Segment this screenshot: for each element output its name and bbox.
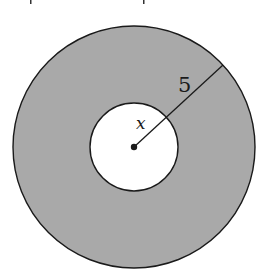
inner-radius-label: x xyxy=(136,113,146,133)
center-point xyxy=(131,144,137,150)
outer-radius-label: 5 xyxy=(178,73,191,97)
cropped-text-fragments xyxy=(30,0,145,4)
annulus-diagram: 5 x xyxy=(0,0,267,273)
